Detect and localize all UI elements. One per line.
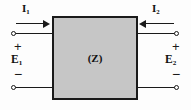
current-label-port-2-subscript: 2 (156, 8, 159, 15)
impedance-network-box: (Z) (52, 16, 138, 100)
voltage-label-port-1-subscript: 1 (19, 59, 23, 67)
voltage-label-port-2: E2 (165, 54, 176, 67)
polarity-plus-port-1: + (14, 40, 22, 53)
current-label-port-1-subscript: 1 (26, 8, 29, 15)
wire-left-bottom (15, 87, 53, 88)
voltage-label-port-1-symbol: E (11, 53, 19, 65)
current-label-port-2: I2 (152, 3, 160, 15)
two-port-network-diagram: I1 I2 + − + − E1 E2 (Z) (0, 0, 191, 110)
impedance-network-label: (Z) (54, 52, 136, 64)
current-arrow-right-icon (16, 23, 43, 24)
wire-left-top (15, 33, 53, 34)
wire-right-top (137, 33, 176, 34)
terminal-left-top (11, 31, 16, 36)
terminal-left-bottom (11, 85, 16, 90)
terminal-right-top (174, 31, 179, 36)
voltage-label-port-2-symbol: E (165, 53, 173, 65)
polarity-minus-port-2: − (172, 67, 180, 81)
current-arrow-left-icon (146, 23, 174, 24)
terminal-right-bottom (174, 85, 179, 90)
polarity-minus-port-1: − (14, 67, 22, 81)
wire-right-bottom (137, 87, 176, 88)
voltage-label-port-1: E1 (11, 54, 22, 67)
polarity-plus-port-2: + (172, 40, 180, 53)
current-label-port-1: I1 (22, 3, 30, 15)
voltage-label-port-2-subscript: 2 (173, 59, 177, 67)
